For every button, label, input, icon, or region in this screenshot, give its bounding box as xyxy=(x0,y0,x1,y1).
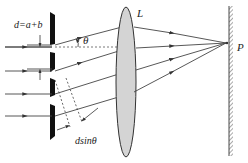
grating-constant-label: d=a+b xyxy=(14,19,43,30)
lens xyxy=(116,7,136,157)
grating xyxy=(50,12,55,140)
incident-rays xyxy=(5,45,52,116)
diffraction-diagram: d=a+b θ L P dsinθ xyxy=(0,0,248,163)
path-difference-lines xyxy=(55,78,82,127)
lens-label: L xyxy=(136,7,143,19)
angle-label: θ xyxy=(83,34,89,46)
path-difference-label: dsinθ xyxy=(75,135,97,146)
diffracted-rays xyxy=(55,27,122,116)
point-label: P xyxy=(236,41,244,53)
screen xyxy=(229,6,233,156)
converging-rays xyxy=(134,27,226,92)
angle-arc xyxy=(77,40,78,47)
focus-point xyxy=(226,42,228,44)
path-difference-arrows xyxy=(57,108,98,130)
